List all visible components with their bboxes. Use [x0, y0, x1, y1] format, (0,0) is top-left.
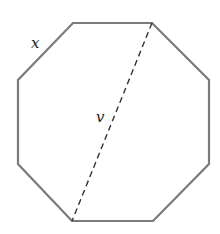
octagon-diagram: x v: [0, 0, 220, 234]
side-label: x: [31, 34, 40, 52]
octagon-outline: [18, 23, 209, 221]
diagonal-label: v: [96, 108, 105, 126]
diagonal-dashed-line: [72, 23, 152, 221]
